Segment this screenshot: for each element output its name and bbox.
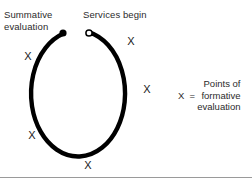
formative-x-mark-upper-left: X [23, 51, 33, 62]
formative-x-mark-right: X [142, 84, 152, 95]
legend-description: Points of formative evaluation [197, 78, 240, 113]
formative-x-mark-upper-right: X [126, 36, 136, 47]
cycle-arc [31, 32, 125, 156]
services-begin-marker-icon [83, 27, 95, 39]
summative-evaluation-label: Summative evaluation [4, 9, 74, 32]
legend: X = Points of formative evaluation [178, 78, 240, 113]
formative-x-mark-lower-left: X [27, 130, 37, 141]
legend-symbol: X = [178, 90, 195, 102]
formative-x-mark-bottom: X [83, 160, 93, 171]
services-begin-label: Services begin [83, 9, 167, 21]
bottom-divider [0, 177, 252, 178]
